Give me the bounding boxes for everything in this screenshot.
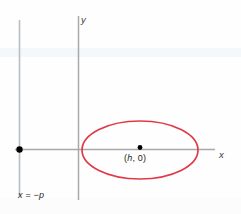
y-axis-label: y (81, 15, 86, 25)
directrix-equation-label: x = −p (18, 191, 44, 200)
directrix-intercept-point (16, 146, 22, 152)
directrix-label-equals: = (23, 190, 34, 200)
directrix-label-value: −p (34, 190, 45, 200)
ellipse-directrix-figure: y x (h, 0) x = −p (0, 0, 241, 214)
ellipse-center-label: (h, 0) (124, 154, 146, 163)
figure-canvas (0, 0, 241, 214)
ellipse-center-point (138, 145, 143, 150)
scan-artifact-band (0, 48, 241, 57)
scan-artifact-bottom (0, 198, 241, 214)
x-axis-label: x (219, 150, 224, 160)
center-label-rest: , 0) (132, 153, 146, 163)
